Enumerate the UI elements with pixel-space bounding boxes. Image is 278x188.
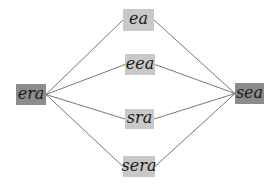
edge-eea-sea [155, 65, 235, 94]
edge-sra-sea [154, 94, 235, 120]
edge-era-ea [46, 20, 123, 95]
diagram-canvas: era ea eea sra sera sea [0, 0, 278, 188]
node-sea: sea [235, 83, 264, 104]
edge-era-sera [46, 95, 123, 167]
node-sera: sera [123, 156, 155, 177]
node-label: ea [129, 11, 148, 27]
node-eea: eea [125, 54, 155, 75]
node-label: sra [127, 110, 152, 126]
node-label: era [18, 86, 45, 102]
node-label: sera [122, 158, 157, 174]
node-label: eea [126, 56, 154, 72]
node-era: era [16, 84, 46, 105]
edge-sera-sea [155, 94, 235, 167]
edge-era-eea [46, 65, 125, 95]
node-sra: sra [125, 109, 154, 129]
node-ea: ea [123, 9, 154, 31]
node-label: sea [236, 85, 263, 101]
edge-ea-sea [154, 20, 235, 94]
edge-era-sra [46, 95, 125, 120]
